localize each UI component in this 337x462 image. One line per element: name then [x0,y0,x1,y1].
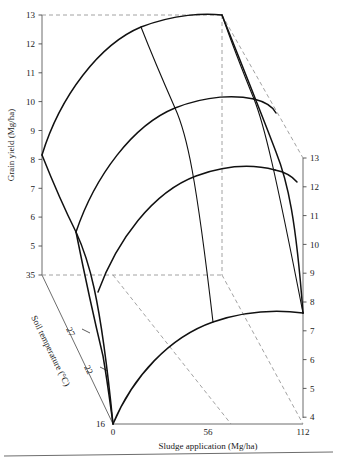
guide-peak-to-right-axis [222,15,303,158]
mesh-contour-27-right-tail [254,99,276,113]
left-tick-label-11: 11 [26,68,35,78]
mesh-rib-sludge-56 [222,15,303,313]
left-tick-label-9: 9 [31,126,36,136]
depth-tick-label-22: 22 [82,363,95,375]
mesh-contour-temp-27 [76,97,254,232]
mesh-skirt-front-left [76,232,113,424]
left-axis-title: Grain yield (Mg/ha) [6,109,16,181]
right-tick-label-9: 9 [310,268,315,278]
left-tick-label-10: 10 [26,97,36,107]
mesh-edge-sludge-112 [222,15,303,313]
x-tick-label-0: 0 [111,427,116,437]
mesh-contour-22-right-tail [275,170,297,182]
depth-tick-label-27: 27 [64,325,77,338]
depth-axis: 27 22 16 Soil temperature (°C) [29,275,113,429]
x-tick-label-56: 56 [204,427,214,437]
left-tick-label-6: 6 [31,212,36,222]
response-surface-chart: 13 12 11 10 9 8 7 6 5 35 Grain yield (Mg… [0,0,337,462]
left-tick-label-8: 8 [31,155,36,165]
right-tick-label-10: 10 [310,240,320,250]
mesh-ridge-temp-35 [42,14,222,155]
bottom-axis: 0 56 112 Sludge application (Mg/ha) [111,424,310,451]
left-tick-label-5: 5 [31,241,36,251]
right-tick-label-13: 13 [310,153,320,163]
right-tick-label-8: 8 [310,297,315,307]
right-tick-label-6: 6 [310,355,315,365]
left-tick-label-12: 12 [26,39,35,49]
x-tick-label-112: 112 [296,427,309,437]
depth-axis-end-label: 16 [96,419,106,429]
guide-floor-left-edge [113,275,231,424]
bottom-axis-title: Sludge application (Mg/ha) [159,441,258,451]
right-tick-label-11: 11 [310,211,319,221]
right-tick-label-12: 12 [310,182,319,192]
left-axis-origin-label: 35 [26,270,36,280]
right-tick-label-5: 5 [310,384,315,394]
guide-floor-mid-edge [222,275,303,424]
right-axis: 13 12 11 10 9 8 7 6 5 4 [303,153,320,422]
right-tick-label-7: 7 [310,326,315,336]
mesh-ridge-temp-16 [113,311,303,424]
right-tick-label-4: 4 [310,412,315,422]
page-bottom-rule [4,452,333,456]
left-tick-label-7: 7 [31,184,36,194]
mesh-contour-temp-22 [98,166,275,292]
surface-mesh [42,14,303,424]
left-tick-label-13: 13 [26,10,36,20]
depth-tick-27 [82,329,90,333]
left-axis: 13 12 11 10 9 8 7 6 5 35 Grain yield (Mg… [6,10,42,280]
mesh-edge-sludge-0 [42,155,113,424]
